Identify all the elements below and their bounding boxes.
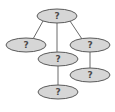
node-root-label: ? [54, 11, 59, 21]
edge-root-left [33, 21, 43, 39]
node-right-child-label: ? [87, 70, 92, 80]
nodes: ? ? ? ? ? ? [6, 9, 110, 99]
node-middle: ? [38, 52, 78, 66]
tree-diagram: ? ? ? ? ? ? [0, 0, 115, 112]
node-right-label: ? [87, 40, 92, 50]
node-middle-child: ? [38, 85, 78, 99]
node-right-child: ? [70, 68, 110, 82]
node-left: ? [6, 38, 46, 52]
node-left-label: ? [23, 40, 28, 50]
node-right: ? [70, 38, 110, 52]
node-root: ? [37, 9, 77, 23]
edge-root-right [70, 21, 82, 39]
tree-diagram-svg: ? ? ? ? ? ? [0, 0, 115, 112]
node-middle-child-label: ? [55, 87, 60, 97]
node-middle-label: ? [55, 54, 60, 64]
